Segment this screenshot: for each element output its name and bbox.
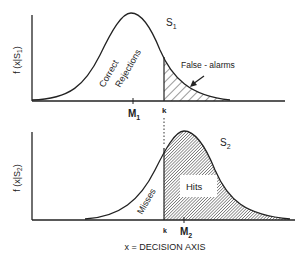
top-k-label: k [162, 106, 167, 115]
false-alarms-label: False - alarms [181, 60, 235, 70]
m2-label: M2 [180, 226, 192, 239]
hits-label: Hits [186, 181, 203, 192]
signal-detection-diagram: f (x|S1) S1 M1 k Correct Rejections Fals… [0, 0, 306, 262]
bottom-panel: f (x|S2) S2 Hits Misses k M2 x = DECISIO… [12, 131, 295, 252]
misses-label: Misses [135, 186, 158, 216]
m1-label: M1 [128, 108, 140, 121]
top-y-axis-label: f (x|S1) [12, 46, 23, 73]
bottom-y-axis-label: f (x|S2) [12, 164, 23, 191]
bottom-k-label: k [163, 227, 167, 234]
correct-rejections-label: Correct Rejections [97, 40, 143, 96]
arrowhead-icon [190, 80, 197, 87]
top-panel: f (x|S1) S1 M1 k Correct Rejections Fals… [12, 13, 285, 121]
decision-axis-label: x = DECISION AXIS [125, 242, 206, 252]
s2-label: S2 [220, 137, 231, 150]
s1-label: S1 [166, 17, 177, 30]
